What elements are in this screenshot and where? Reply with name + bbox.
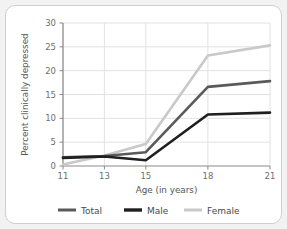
chart-legend: Total Male Female [58,206,240,216]
data-series-group [63,45,270,164]
y-axis-title: Percent clinically depressed [20,33,30,155]
line-chart-canvas: 0 5 10 15 20 25 30 11 13 15 18 21 [6,6,283,225]
y-tick-label: 5 [51,137,56,147]
x-tick-label: 18 [202,171,213,181]
figure-frame: 0 5 10 15 20 25 30 11 13 15 18 21 [5,5,282,224]
y-tick-label: 20 [45,66,56,76]
legend-label-total: Total [80,206,102,216]
y-tick-label: 30 [45,18,56,28]
y-tick-label: 10 [45,113,56,123]
series-line-female [63,45,270,164]
x-axis-title: Age (in years) [136,185,198,195]
legend-label-female: Female [207,206,240,216]
horizontal-gridlines [63,23,270,142]
legend-item-total[interactable]: Total [58,206,102,216]
x-tick-label: 15 [140,171,151,181]
x-tick-label: 21 [265,171,276,181]
y-axis-tick-labels: 0 5 10 15 20 25 30 [45,18,56,171]
chart-figure: 0 5 10 15 20 25 30 11 13 15 18 21 [0,0,287,229]
y-tick-label: 0 [51,161,56,171]
x-tick-label: 13 [99,171,110,181]
legend-item-female[interactable]: Female [184,206,240,216]
legend-item-male[interactable]: Male [124,206,169,216]
x-axis-tick-labels: 11 13 15 18 21 [58,171,276,181]
series-line-male [63,113,270,161]
y-tick-label: 25 [45,42,56,52]
y-tick-label: 15 [45,90,56,100]
x-tick-label: 11 [58,171,69,181]
legend-label-male: Male [147,206,169,216]
